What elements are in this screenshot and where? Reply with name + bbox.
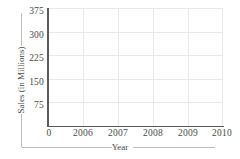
y-axis-title-rule-top: [21, 13, 22, 46]
gridline-vertical-2007: [118, 8, 119, 126]
gridline-horizontal-225: [48, 55, 223, 56]
gridline-horizontal-375: [48, 8, 223, 9]
y-tick-label-375: 375: [0, 6, 44, 16]
y-axis-title: Sales (in Millions): [16, 47, 27, 114]
x-axis-tick-labels: 0 2006 2007 2008 2009 2010: [0, 127, 240, 141]
x-tick-label-0: 0: [47, 127, 52, 139]
gridline-horizontal-150: [48, 79, 223, 80]
x-tick-label-2007: 2007: [108, 127, 128, 139]
sales-by-year-chart: 375 300 225 150 75 0 2006 2007 2008 2009…: [0, 0, 240, 159]
plot-area: [48, 8, 223, 126]
gridline-vertical-2006: [83, 8, 84, 126]
gridline-vertical-2009: [188, 8, 189, 126]
gridline-horizontal-300: [48, 32, 223, 33]
y-tick-label-300: 300: [0, 30, 44, 40]
gridline-vertical-2010: [222, 8, 223, 126]
y-axis-line: [47, 8, 49, 127]
gridline-horizontal-75: [48, 102, 223, 103]
x-tick-label-2009: 2009: [178, 127, 198, 139]
x-tick-label-2006: 2006: [73, 127, 93, 139]
gridline-vertical-2008: [153, 8, 154, 126]
x-tick-label-2010: 2010: [212, 127, 232, 139]
x-tick-label-2008: 2008: [143, 127, 163, 139]
x-axis-title: Year: [0, 141, 240, 153]
y-axis-title-rule-bottom: [21, 114, 22, 147]
